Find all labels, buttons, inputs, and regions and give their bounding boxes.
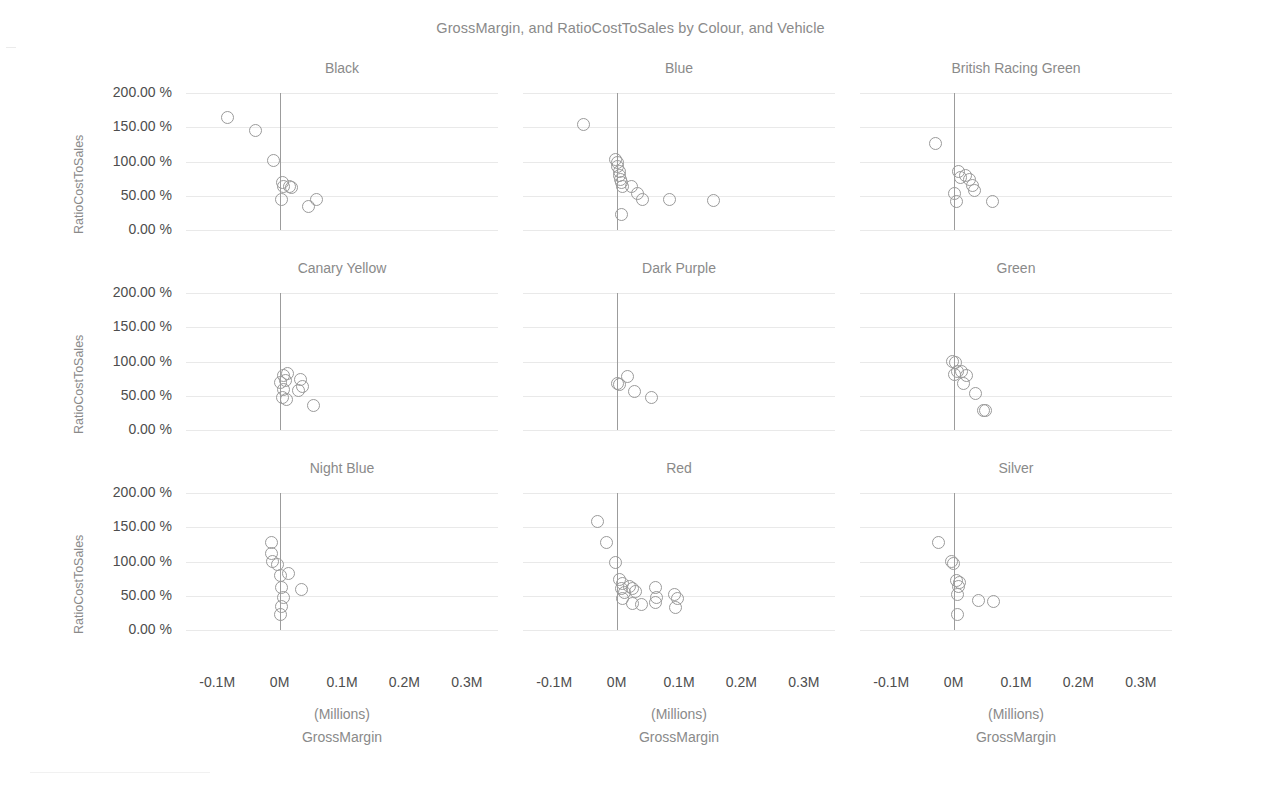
data-point[interactable] [628,385,641,398]
data-point[interactable] [274,608,287,621]
data-point[interactable] [636,193,649,206]
data-point[interactable] [249,124,262,137]
panel-title-black: Black [186,60,498,76]
gridline [186,230,498,231]
x-axis-label: GrossMargin [860,729,1172,745]
gridline [186,93,498,94]
data-point[interactable] [951,588,964,601]
panel-title-red: Red [523,460,835,476]
panel-title-canary-yellow: Canary Yellow [186,260,498,276]
gridline [523,127,835,128]
data-point[interactable] [663,193,676,206]
data-point[interactable] [282,567,295,580]
data-point[interactable] [307,399,320,412]
y-axis-line [954,93,955,230]
y-axis-tick: 0.00 % [80,421,172,437]
gridline [860,527,1172,528]
gridline [186,430,498,431]
y-axis-tick: 200.00 % [80,84,172,100]
gridline [860,493,1172,494]
gridline [860,327,1172,328]
gridline [860,430,1172,431]
data-point[interactable] [285,181,298,194]
gridline [186,562,498,563]
panel-title-green: Green [860,260,1172,276]
gridline [523,527,835,528]
scatter-matrix-chart: GrossMargin, and RatioCostToSales by Col… [0,0,1261,801]
data-point[interactable] [979,404,992,417]
scatter-panel-blue [523,93,835,230]
y-axis-tick: 100.00 % [80,153,172,169]
gridline [523,493,835,494]
gridline [523,396,835,397]
scatter-panel-red [523,493,835,630]
gridline [523,362,835,363]
panel-title-british-racing-green: British Racing Green [860,60,1172,76]
gridline [186,596,498,597]
data-point[interactable] [987,595,1000,608]
gridline [523,93,835,94]
data-point[interactable] [972,594,985,607]
data-point[interactable] [221,111,234,124]
y-axis-label: RatioCostToSales [72,535,86,634]
data-point[interactable] [707,194,720,207]
data-point[interactable] [649,596,662,609]
data-point[interactable] [969,387,982,400]
data-point[interactable] [947,557,960,570]
x-axis-tick: 0.3M [427,674,507,690]
gridline [860,396,1172,397]
y-axis-line [617,293,618,430]
gridline [860,596,1172,597]
gridline [523,562,835,563]
data-point[interactable] [951,608,964,621]
data-point[interactable] [645,391,658,404]
data-point[interactable] [267,154,280,167]
gridline [523,162,835,163]
x-axis-label: GrossMargin [186,729,498,745]
gridline [186,396,498,397]
gridline [860,127,1172,128]
data-point[interactable] [950,195,963,208]
data-point[interactable] [615,208,628,221]
data-point[interactable] [621,370,634,383]
y-axis-tick: 50.00 % [80,387,172,403]
y-axis-tick: 150.00 % [80,318,172,334]
y-axis-tick: 200.00 % [80,484,172,500]
data-point[interactable] [280,393,293,406]
gridline [186,362,498,363]
data-point[interactable] [932,536,945,549]
gridline [860,562,1172,563]
gridline [860,162,1172,163]
chart-title: GrossMargin, and RatioCostToSales by Col… [0,20,1261,36]
x-axis-tick: 0.3M [1101,674,1181,690]
data-point[interactable] [295,583,308,596]
gridline [523,430,835,431]
gridline [186,162,498,163]
data-point[interactable] [669,601,682,614]
scatter-panel-dark-purple [523,293,835,430]
gridline [860,196,1172,197]
gridline [186,196,498,197]
data-point[interactable] [986,195,999,208]
data-point[interactable] [635,598,648,611]
data-point[interactable] [957,377,970,390]
panel-title-night-blue: Night Blue [186,460,498,476]
y-axis-line [280,293,281,430]
data-point[interactable] [310,193,323,206]
y-axis-tick: 100.00 % [80,353,172,369]
gridline [860,362,1172,363]
data-point[interactable] [275,193,288,206]
scatter-panel-silver [860,493,1172,630]
x-axis-unit: (Millions) [860,706,1172,722]
data-point[interactable] [577,118,590,131]
gridline [186,493,498,494]
data-point[interactable] [609,556,622,569]
y-axis-label: RatioCostToSales [72,335,86,434]
data-point[interactable] [600,536,613,549]
scatter-panel-british-racing-green [860,93,1172,230]
data-point[interactable] [929,137,942,150]
gridline [860,630,1172,631]
gridline [186,293,498,294]
panel-title-silver: Silver [860,460,1172,476]
gridline [186,127,498,128]
